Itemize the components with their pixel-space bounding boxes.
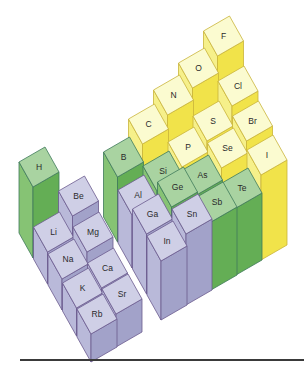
element-symbol: C — [145, 119, 151, 129]
element-symbol: Cl — [234, 81, 242, 91]
periodic-table-3d-diagram: HFONCBBeLiClSPSiAlMgNaBrSeAsGeGaCaKITeSb… — [0, 0, 304, 378]
element-symbol: Al — [134, 190, 142, 200]
element-block-in: In — [147, 221, 187, 320]
element-blocks: HFONCBBeLiClSPSiAlMgNaBrSeAsGeGaCaKITeSb… — [19, 16, 287, 362]
element-symbol: B — [121, 152, 127, 162]
element-symbol: Ca — [102, 263, 113, 273]
element-symbol: P — [185, 142, 191, 152]
element-symbol: Sb — [212, 197, 223, 207]
block-front-face — [261, 160, 287, 260]
element-symbol: Sn — [187, 209, 198, 219]
element-symbol: Br — [248, 116, 257, 126]
element-symbol: Li — [50, 227, 57, 237]
element-symbol: O — [195, 63, 202, 73]
element-symbol: Se — [222, 143, 233, 153]
element-symbol: F — [221, 31, 226, 41]
element-symbol: I — [266, 150, 268, 160]
element-symbol: Rb — [92, 309, 103, 319]
element-symbol: As — [198, 170, 208, 180]
element-symbol: N — [170, 90, 176, 100]
element-symbol: S — [210, 116, 216, 126]
element-symbol: Ge — [172, 182, 184, 192]
element-symbol: Be — [73, 191, 84, 201]
element-symbol: K — [80, 283, 86, 293]
element-symbol: In — [163, 236, 170, 246]
element-symbol: Sr — [118, 289, 127, 299]
element-symbol: Na — [63, 254, 74, 264]
baseline-rule — [20, 359, 304, 361]
element-symbol: Ga — [147, 209, 159, 219]
element-symbol: H — [36, 162, 42, 172]
element-symbol: Si — [159, 166, 167, 176]
element-symbol: Te — [238, 183, 247, 193]
element-symbol: Mg — [87, 227, 99, 237]
